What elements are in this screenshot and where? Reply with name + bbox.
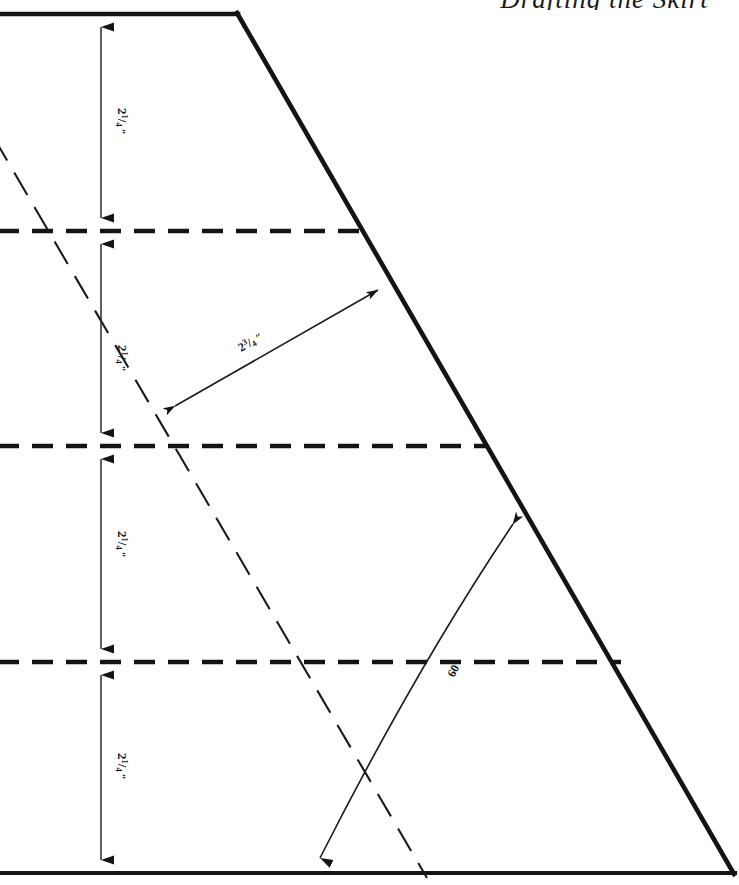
diagonal-dimension-group: 23/4″ <box>175 290 378 406</box>
diagonal-dimension-label: 23/4″ <box>235 329 265 356</box>
angle-arc-group: 60° <box>320 524 513 858</box>
dimension-label-segment-4: 21/4″ <box>114 753 130 780</box>
dim3-denominator: 4 <box>114 545 124 550</box>
diagonal-dimension-line <box>175 290 378 406</box>
dim3-unit: ″ <box>116 552 128 558</box>
dim4-unit: ″ <box>116 774 128 780</box>
dim2-denominator: 4 <box>114 359 124 364</box>
dimension-label-segment-1: 21/4″ <box>114 108 130 135</box>
dim4-denominator: 4 <box>114 767 124 772</box>
dimension-label-segment-2: 21/4″ <box>114 345 130 372</box>
dim1-unit: ″ <box>116 129 128 135</box>
diagram-page: Drafting the Skirt <box>0 0 739 885</box>
garment-outline-group <box>0 13 735 874</box>
outline-slant-edge <box>237 13 734 874</box>
dim2-unit: ″ <box>116 366 128 372</box>
angle-arc-path <box>320 524 513 858</box>
dashed-horizontal-lines-group <box>0 231 621 662</box>
dashed-diagonal-line-group <box>0 138 427 878</box>
pattern-diagram: 21/4″ 21/4″ 21/4″ 21/4″ 23/4″ 60° <box>0 0 739 885</box>
dim1-denominator: 4 <box>114 122 124 127</box>
dashed-diagonal-line <box>0 138 427 878</box>
dimension-label-segment-3: 21/4″ <box>114 531 130 558</box>
